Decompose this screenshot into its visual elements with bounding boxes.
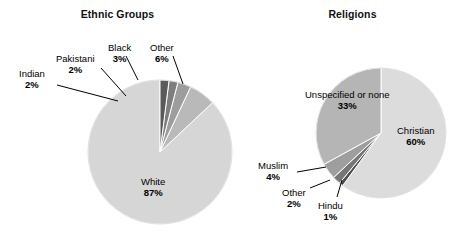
pie-label-religions-hindu: Hindu1%: [318, 200, 343, 222]
pie-label-percent: 60%: [397, 136, 435, 147]
pie-label-name: Other: [282, 187, 306, 198]
pie-label-ethnic-groups-black: Black3%: [108, 42, 131, 64]
pie-label-name: Black: [108, 42, 131, 53]
pie-label-religions-christian: Christian60%: [397, 125, 435, 147]
pie-label-percent: 2%: [282, 198, 306, 209]
pie-label-name: Other: [150, 42, 174, 53]
pie-label-name: Christian: [397, 125, 435, 136]
pie-label-percent: 33%: [305, 100, 390, 111]
pie-label-ethnic-groups-white: White87%: [141, 176, 165, 198]
pie-label-ethnic-groups-pakistani: Pakistani2%: [56, 53, 95, 75]
pie-charts-figure: Ethnic Groups Religions White87%Other6%B…: [0, 0, 470, 245]
pie-label-percent: 2%: [19, 79, 45, 90]
pie-label-name: Unspecified or none: [305, 89, 390, 100]
pie-label-percent: 3%: [108, 53, 131, 64]
pie-label-religions-other: Other2%: [282, 187, 306, 209]
pie-label-religions-muslim: Muslim4%: [258, 160, 288, 182]
religions-other-leader: [310, 180, 330, 188]
pie-ethnic-groups: [57, 56, 232, 224]
pie-label-name: Pakistani: [56, 53, 95, 64]
pie-label-percent: 87%: [141, 187, 165, 198]
pie-label-ethnic-groups-indian: Indian2%: [19, 68, 45, 90]
pie-label-name: Muslim: [258, 160, 288, 171]
pie-label-name: Indian: [19, 68, 45, 79]
pie-label-religions-unspecified-or-none: Unspecified or none33%: [305, 89, 390, 111]
pie-graphics-layer: [0, 0, 470, 245]
pie-label-percent: 4%: [258, 171, 288, 182]
pie-label-ethnic-groups-other: Other6%: [150, 42, 174, 64]
religions-muslim-leader: [297, 167, 326, 172]
ethnic-groups-pakistani-leader: [101, 68, 126, 96]
ethnic-groups-indian-leader: [57, 85, 118, 101]
pie-label-percent: 1%: [318, 211, 343, 222]
pie-label-name: White: [141, 176, 165, 187]
pie-label-percent: 2%: [56, 64, 95, 75]
pie-label-name: Hindu: [318, 200, 343, 211]
ethnic-groups-other-leader: [173, 56, 183, 84]
pie-label-percent: 6%: [150, 53, 174, 64]
